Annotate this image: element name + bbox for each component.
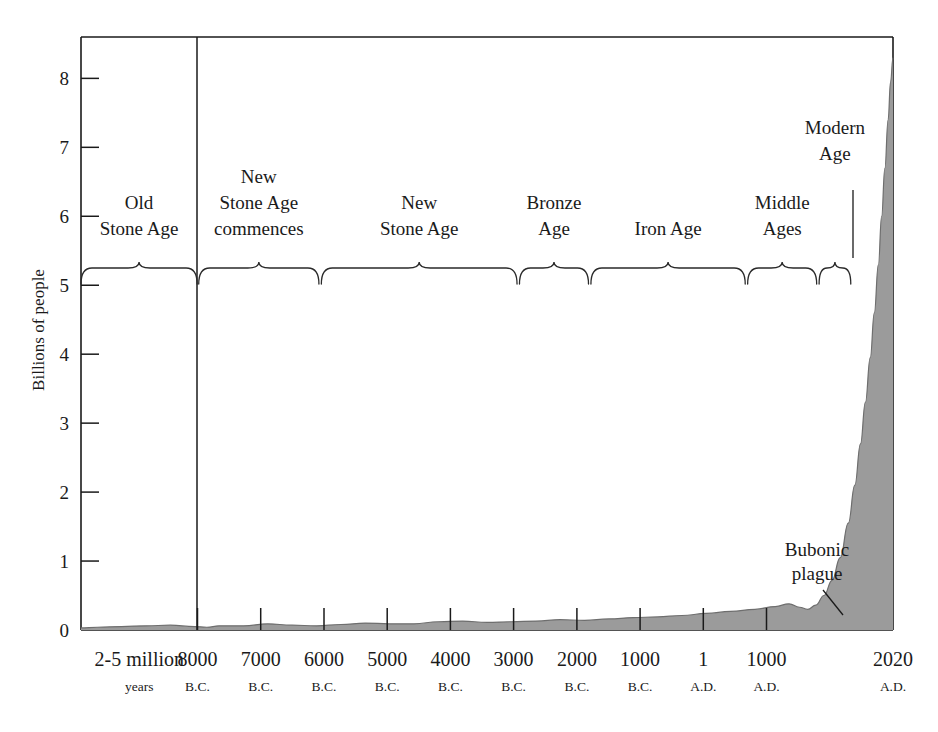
x-tick-label-sub-9: A.D.: [690, 679, 716, 694]
era-label-modern-age-line2: Age: [819, 143, 851, 164]
x-tick-label-main-8: 1000: [620, 648, 660, 670]
y-axis-ticks: 012345678: [60, 68, 100, 641]
y-tick-label-0: 0: [60, 620, 70, 641]
era-label-new-stone-age-commences-line3: commences: [214, 218, 304, 239]
population-area-fill: [81, 58, 893, 630]
era-label-middle-ages-line1: Middle: [755, 192, 810, 213]
x-tick-label-sub-1: B.C.: [185, 679, 210, 694]
y-tick-label-1: 1: [60, 551, 70, 572]
era-label-iron-age-line1: Iron Age: [635, 218, 702, 239]
era-brace-new-stone-age: [321, 262, 517, 284]
era-label-bronze-age-line2: Age: [538, 218, 570, 239]
x-tick-label-main-6: 3000: [494, 648, 534, 670]
chart-svg: Billions of people 012345678 OldStone Ag…: [0, 0, 938, 732]
x-tick-label-main-11: 2020: [873, 648, 913, 670]
era-brace-new-stone-age-commences: [199, 262, 319, 284]
x-tick-label-main-5: 4000: [430, 648, 470, 670]
era-label-new-stone-age-commences-line1: New: [241, 166, 277, 187]
x-tick-label-main-1: 8000: [178, 648, 218, 670]
x-tick-label-sub-11: A.D.: [880, 679, 906, 694]
era-label-modern-age-line1: Modern: [805, 117, 866, 138]
x-tick-label-main-4: 5000: [367, 648, 407, 670]
x-tick-label-sub-2: B.C.: [248, 679, 273, 694]
x-tick-label-main-7: 2000: [557, 648, 597, 670]
x-tick-label-main-10: 1000: [747, 648, 787, 670]
y-tick-label-6: 6: [60, 206, 70, 227]
era-brace-iron-age: [591, 262, 745, 284]
era-label-old-stone-age-line2: Stone Age: [100, 218, 179, 239]
population-growth-figure: Billions of people 012345678 OldStone Ag…: [0, 0, 938, 732]
era-label-new-stone-age-line2: Stone Age: [380, 218, 459, 239]
x-tick-label-main-3: 6000: [304, 648, 344, 670]
era-brace-bronze-age: [519, 262, 588, 284]
era-label-new-stone-age-commences-line2: Stone Age: [219, 192, 298, 213]
bubonic-plague-label-line2: plague: [792, 563, 843, 584]
bubonic-plague-label-line1: Bubonic: [785, 539, 849, 560]
x-tick-label-sub-3: B.C.: [312, 679, 337, 694]
era-label-old-stone-age-line1: Old: [125, 192, 154, 213]
x-tick-label-sub-0: years: [125, 679, 153, 694]
era-brace-old-stone-age: [81, 262, 197, 284]
era-brace-modern-age: [819, 262, 851, 284]
y-tick-label-5: 5: [60, 275, 70, 296]
x-tick-label-sub-5: B.C.: [438, 679, 463, 694]
x-tick-label-sub-6: B.C.: [501, 679, 526, 694]
era-labels: OldStone AgeNewStone AgecommencesNewSton…: [100, 117, 866, 239]
x-tick-label-sub-10: A.D.: [753, 679, 779, 694]
population-area-outline: [81, 58, 893, 628]
y-tick-label-7: 7: [60, 137, 70, 158]
x-tick-label-sub-8: B.C.: [628, 679, 653, 694]
annotation-group: Bubonic plague: [785, 190, 853, 615]
x-tick-label-sub-7: B.C.: [565, 679, 590, 694]
y-axis-label: Billions of people: [29, 269, 48, 391]
x-tick-label-main-2: 7000: [241, 648, 281, 670]
y-tick-label-2: 2: [60, 482, 70, 503]
era-label-middle-ages-line2: Ages: [763, 218, 802, 239]
y-tick-label-8: 8: [60, 68, 70, 89]
x-axis-tick-labels: 2-5 millionyears8000B.C.7000B.C.6000B.C.…: [95, 648, 913, 694]
y-tick-label-4: 4: [60, 344, 70, 365]
era-label-bronze-age-line1: Bronze: [527, 192, 582, 213]
x-tick-label-main-0: 2-5 million: [95, 648, 184, 670]
era-brace-middle-ages: [748, 262, 817, 284]
population-area-series: [81, 58, 893, 630]
y-axis-label-group: Billions of people: [29, 269, 48, 391]
era-label-new-stone-age-line1: New: [401, 192, 437, 213]
plot-frame: [81, 37, 893, 630]
y-tick-label-3: 3: [60, 413, 70, 434]
x-tick-label-main-9: 1: [698, 648, 708, 670]
x-tick-label-sub-4: B.C.: [375, 679, 400, 694]
